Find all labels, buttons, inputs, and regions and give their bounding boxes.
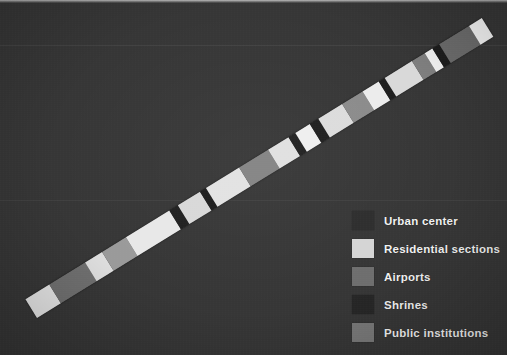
legend-label-airports: Airports: [384, 271, 431, 283]
scan-line-lower: [0, 200, 507, 201]
legend-swatch-airports: [352, 267, 374, 286]
legend: Urban centerResidential sectionsAirports…: [352, 207, 502, 347]
legend-swatch-public-institutions: [352, 323, 374, 342]
legend-label-shrines: Shrines: [384, 299, 428, 311]
scan-edge-highlight: [0, 0, 507, 3]
legend-label-public-institutions: Public institutions: [384, 327, 488, 339]
legend-item-airports: Airports: [352, 263, 502, 290]
legend-label-residential-sections: Residential sections: [384, 243, 500, 255]
legend-swatch-residential-sections: [352, 239, 374, 258]
legend-swatch-urban-center: [352, 211, 374, 230]
legend-label-urban-center: Urban center: [384, 215, 458, 227]
legend-item-shrines: Shrines: [352, 291, 502, 318]
scan-line-upper: [0, 45, 507, 46]
legend-item-residential-sections: Residential sections: [352, 235, 502, 262]
legend-item-public-institutions: Public institutions: [352, 319, 502, 346]
legend-swatch-shrines: [352, 295, 374, 314]
legend-item-urban-center: Urban center: [352, 207, 502, 234]
figure-canvas: Urban centerResidential sectionsAirports…: [0, 0, 507, 355]
